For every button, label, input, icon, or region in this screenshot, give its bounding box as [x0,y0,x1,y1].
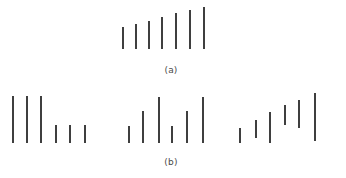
bar-mark [12,96,14,143]
panel-b-label: (b) [151,157,191,167]
bar-mark [122,27,124,49]
bar-mark [269,112,271,143]
bar-mark [148,21,150,49]
bar-mark [69,125,71,143]
bar-mark [202,97,204,143]
bar-mark [161,17,163,49]
bar-mark [239,128,241,143]
bar-mark [175,13,177,49]
bar-mark [203,7,205,49]
bar-mark [55,125,57,143]
bar-mark [255,120,257,138]
bar-mark [186,111,188,143]
bar-mark [84,125,86,143]
figure-container: (a) (b) [0,0,346,178]
bar-mark [158,97,160,143]
bar-mark [40,96,42,143]
bar-mark [298,100,300,128]
bar-mark [128,126,130,143]
bar-mark [189,10,191,49]
panel-a-label: (a) [151,65,191,75]
bar-mark [314,93,316,141]
bar-mark [171,126,173,143]
bar-mark [142,111,144,143]
bar-mark [26,96,28,143]
bar-mark [284,105,286,125]
bar-mark [135,24,137,49]
